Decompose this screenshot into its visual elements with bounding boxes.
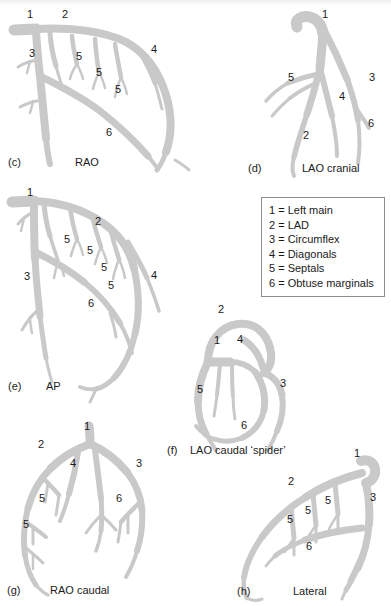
panel-h-label-6: 6 — [306, 541, 312, 552]
panel-f-vessel-diagram — [160, 300, 320, 460]
panel-d-label-4: 4 — [339, 91, 345, 102]
panel-g-label-2: 2 — [38, 439, 44, 450]
panel-e-label-2: 2 — [95, 216, 101, 227]
panel-c-label-6: 6 — [106, 127, 112, 138]
panel-g-label-5-a: 5 — [39, 493, 45, 504]
panel-e-label-4: 4 — [151, 270, 157, 281]
panel-h-label-3: 3 — [370, 492, 376, 503]
legend-row-5: 5 = Septals — [269, 261, 378, 276]
panel-e-label-6: 6 — [88, 298, 94, 309]
panel-e-caption-letter: (e) — [8, 381, 21, 392]
panel-c-vessel-diagram — [0, 0, 195, 180]
panel-f-label-6: 6 — [241, 420, 247, 431]
panel-g-label-3: 3 — [136, 458, 142, 469]
panel-c-caption-letter: (c) — [8, 157, 21, 168]
coronary-angiography-figure: 1 2 3 4 5 5 5 6 (c) RAO — [0, 0, 391, 606]
panel-h-label-2: 2 — [288, 476, 294, 487]
panel-e-caption-name: AP — [46, 381, 61, 392]
panel-d-caption-name: LAO cranial — [302, 163, 359, 174]
panel-e-label-5-d: 5 — [108, 280, 114, 291]
panel-d-label-5: 5 — [288, 72, 294, 83]
panel-e-label-1: 1 — [27, 187, 33, 198]
panel-h-lateral: 1 2 3 5 5 5 6 (h) Lateral — [210, 440, 391, 606]
panel-g-vessel-diagram — [0, 420, 180, 606]
panel-d-label-2: 2 — [303, 130, 309, 141]
panel-g-label-4: 4 — [70, 458, 76, 469]
legend-row-3: 3 = Circumflex — [269, 232, 378, 247]
panel-h-vessel-diagram — [210, 440, 391, 606]
panel-c-caption-name: RAO — [75, 157, 99, 168]
panel-c-label-2: 2 — [62, 9, 68, 20]
panel-e-label-5-b: 5 — [87, 245, 93, 256]
panel-d-caption-letter: (d) — [248, 163, 261, 174]
panel-d-label-3: 3 — [369, 72, 375, 83]
panel-h-caption-letter: (h) — [237, 586, 250, 597]
panel-g-caption-name: RAO caudal — [50, 585, 109, 596]
panel-g-rao-caudal: 1 2 3 4 5 5 6 (g) RAO caudal — [0, 420, 180, 606]
panel-e-label-5-c: 5 — [101, 262, 107, 273]
panel-f-label-3: 3 — [280, 378, 286, 389]
legend-box: 1 = Left main 2 = LAD 3 = Circumflex 4 =… — [261, 197, 385, 297]
legend-row-1: 1 = Left main — [269, 203, 378, 218]
panel-h-caption-name: Lateral — [293, 586, 327, 597]
panel-c-label-5-b: 5 — [96, 67, 102, 78]
panel-e-label-5-a: 5 — [64, 234, 70, 245]
panel-f-label-2: 2 — [218, 304, 224, 315]
panel-g-caption-letter: (g) — [7, 585, 20, 596]
panel-f-lao-caudal-spider: 1 2 3 4 5 6 (f) LAO caudal ‘spider’ — [160, 300, 320, 460]
panel-c-rao: 1 2 3 4 5 5 5 6 (c) RAO — [0, 0, 195, 180]
legend-row-2: 2 = LAD — [269, 218, 378, 233]
panel-h-label-5-c: 5 — [325, 495, 331, 506]
panel-e-label-3: 3 — [24, 271, 30, 282]
panel-d-label-1: 1 — [322, 9, 328, 20]
panel-c-label-1: 1 — [27, 9, 33, 20]
legend-row-4: 4 = Diagonals — [269, 247, 378, 262]
panel-f-label-4: 4 — [237, 334, 243, 345]
panel-g-label-6: 6 — [116, 493, 122, 504]
panel-c-label-3: 3 — [29, 48, 35, 59]
panel-d-vessel-diagram — [240, 0, 391, 185]
panel-c-label-5-c: 5 — [115, 84, 121, 95]
panel-f-label-1: 1 — [214, 335, 220, 346]
panel-c-label-5-a: 5 — [76, 51, 82, 62]
legend-row-6: 6 = Obtuse marginals — [269, 276, 378, 291]
panel-c-label-4: 4 — [151, 44, 157, 55]
panel-f-label-5: 5 — [197, 384, 203, 395]
panel-g-label-1: 1 — [84, 421, 90, 432]
panel-g-label-5-b: 5 — [23, 519, 29, 530]
panel-d-label-6: 6 — [368, 118, 374, 129]
panel-d-lao-cranial: 1 2 3 4 5 6 (d) LAO cranial — [240, 0, 391, 185]
panel-h-label-5-b: 5 — [305, 505, 311, 516]
panel-h-label-1: 1 — [354, 448, 360, 459]
panel-h-label-5-a: 5 — [287, 514, 293, 525]
